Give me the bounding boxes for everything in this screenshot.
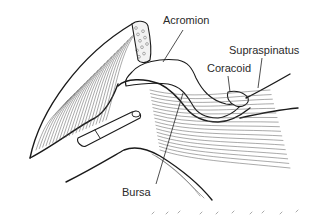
faint-mark	[250, 212, 252, 214]
deltoid-fiber	[43, 93, 75, 147]
bursa-leader-line	[156, 93, 183, 184]
shoulder-anatomy-illustration: Acromion Supraspinatus Coracoid Bursa	[0, 0, 311, 221]
deltoid-fiber	[79, 57, 111, 132]
deltoid-fiber	[39, 97, 71, 149]
deltoid-fiber	[86, 50, 118, 129]
supraspinatus-leader-line	[258, 58, 262, 88]
faint-mark	[200, 212, 202, 214]
label-coracoid: Coracoid	[207, 62, 251, 74]
deltoid-fibers	[36, 30, 138, 150]
arm-lower-outline-2	[152, 154, 200, 196]
faint-mark	[262, 211, 264, 213]
faint-mark	[152, 212, 154, 214]
supraspinatus-upper-edge	[246, 74, 290, 98]
rotator-cuff-fiber	[157, 132, 284, 145]
label-bursa: Bursa	[122, 186, 152, 198]
faint-mark	[280, 212, 282, 214]
faint-mark	[296, 210, 298, 212]
acromion-leader-line	[163, 30, 183, 62]
faint-bottom-marks	[152, 210, 298, 214]
label-supraspinatus: Supraspinatus	[229, 44, 300, 56]
rotator-cuff-fiber	[159, 143, 288, 159]
rotator-cuff-fiber	[160, 150, 290, 168]
faint-mark	[166, 212, 168, 214]
faint-mark	[178, 211, 180, 213]
faint-mark	[216, 212, 218, 214]
deltoid-fiber	[76, 60, 108, 133]
coracoid-leader-line	[228, 76, 230, 92]
rotator-cuff-fibers	[150, 90, 290, 168]
faint-mark	[232, 211, 234, 213]
label-acromion: Acromion	[163, 14, 209, 26]
deltoid-fiber	[83, 53, 115, 130]
